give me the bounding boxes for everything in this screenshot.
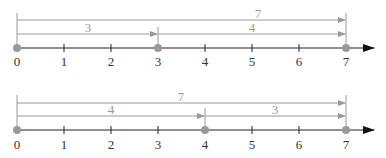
tick-label-6: 6 bbox=[296, 54, 303, 69]
total-label: 7 bbox=[255, 6, 262, 21]
tick-label-2: 2 bbox=[108, 54, 115, 69]
tick-label-7: 7 bbox=[343, 54, 350, 69]
tick-label-1: 1 bbox=[61, 54, 68, 69]
tick-label-7: 7 bbox=[343, 137, 350, 152]
tick-label-5: 5 bbox=[249, 54, 256, 69]
tick-label-5: 5 bbox=[249, 137, 256, 152]
second-addend-label: 4 bbox=[249, 20, 256, 35]
tick-label-2: 2 bbox=[108, 137, 115, 152]
point-7 bbox=[342, 44, 350, 52]
number-line-diagram: 7 3 4 0 1 2 3 4 5 6 7 7 4 bbox=[0, 0, 386, 158]
point-0 bbox=[13, 126, 21, 134]
number-line-bottom: 7 4 3 0 1 2 3 4 5 6 7 bbox=[13, 89, 374, 152]
tick-label-0: 0 bbox=[14, 54, 21, 69]
point-7 bbox=[342, 126, 350, 134]
point-4 bbox=[201, 126, 209, 134]
point-3 bbox=[154, 44, 162, 52]
total-label: 7 bbox=[178, 89, 185, 104]
tick-label-1: 1 bbox=[61, 137, 68, 152]
number-line-top: 7 3 4 0 1 2 3 4 5 6 7 bbox=[13, 6, 374, 69]
tick-label-6: 6 bbox=[296, 137, 303, 152]
point-0 bbox=[13, 44, 21, 52]
first-addend-label: 3 bbox=[85, 20, 92, 35]
tick-label-4: 4 bbox=[202, 54, 209, 69]
tick-label-4: 4 bbox=[202, 137, 209, 152]
second-addend-label: 3 bbox=[272, 102, 279, 117]
tick-label-0: 0 bbox=[14, 137, 21, 152]
tick-label-3: 3 bbox=[155, 54, 162, 69]
first-addend-label: 4 bbox=[108, 102, 115, 117]
tick-label-3: 3 bbox=[155, 137, 162, 152]
